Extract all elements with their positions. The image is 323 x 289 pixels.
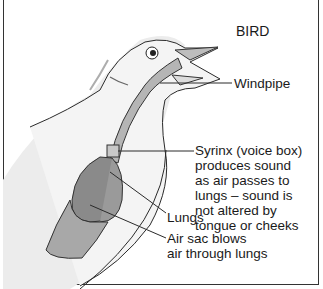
label-lungs: Lungs bbox=[167, 210, 204, 225]
label-syrinx: Syrinx (voice box) produces sound as air… bbox=[195, 143, 302, 233]
label-air-sac: Air sac blows air through lungs bbox=[167, 231, 268, 261]
syrinx bbox=[107, 145, 119, 157]
diagram-title: BIRD bbox=[236, 24, 269, 39]
label-windpipe: Windpipe bbox=[234, 76, 290, 91]
